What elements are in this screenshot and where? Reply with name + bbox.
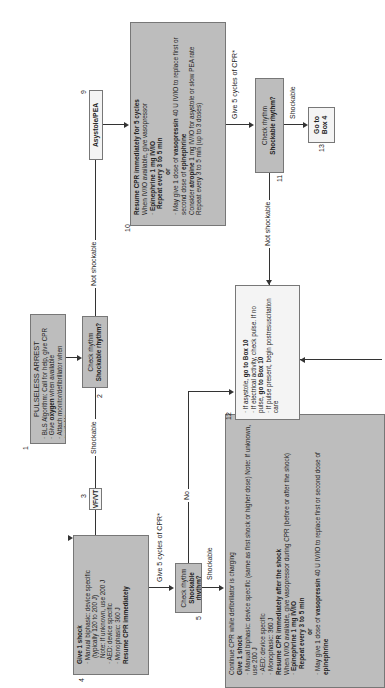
box-number: 12: [225, 412, 232, 420]
connector: [103, 124, 125, 125]
box-give-1-shock: Give 1 shock Manual biphasic: device spe…: [73, 535, 149, 675]
box-number: 9: [80, 90, 87, 94]
edge-label-shockable: Shockable: [90, 419, 97, 456]
box-text: Shockable rhythm?: [269, 83, 277, 168]
list-item: AED: device specific: [259, 419, 267, 675]
box-title: Give 1 shock: [76, 540, 84, 664]
box-text: Check rhythm: [261, 83, 269, 168]
box-text: Shockable rhythm?: [95, 321, 103, 383]
list-item: Note: If unknown, use 200 J: [99, 540, 107, 664]
list-item: May give 1 dose of vasopressin 40 U IV/I…: [314, 419, 330, 675]
box-give-shock-6: Continue CPR while defibrillator is char…: [225, 414, 385, 688]
box-text: Check rhythm: [87, 321, 95, 383]
box-number: 2: [96, 394, 103, 398]
box-number: 11: [276, 175, 283, 182]
box-text: Resume CPR immediately after the shock: [275, 419, 283, 675]
list-item: If electrical activity, check pulse. If …: [250, 290, 265, 413]
box-number: 3: [80, 494, 87, 498]
box-text: Check rhythm: [180, 568, 188, 608]
box-12: If asystole, go to Box 10 If electrical …: [235, 285, 300, 420]
arrow-icon: [169, 585, 174, 591]
box-text: or: [306, 419, 314, 675]
connector: [95, 510, 96, 538]
arrow-icon: [68, 535, 73, 541]
arrow-icon: [249, 122, 254, 128]
box-check-rhythm-11: Check rhythm Shockable rhythm?: [255, 78, 284, 173]
list-item: Manual biphasic: device specific (same a…: [244, 419, 260, 675]
edge-label-no: No: [183, 489, 190, 502]
list-item: If pulse present, begin postresuscitatio…: [265, 290, 280, 413]
list-item: Monophasic: 360 J: [267, 419, 275, 675]
connector: [188, 391, 189, 563]
edge-label-not-shockable: Not shockable: [264, 200, 271, 248]
edge-label-shockable: Shockable: [289, 84, 296, 121]
list-item: Manual biphasic: device specific: [84, 540, 92, 664]
connector: [188, 391, 230, 392]
connector: [226, 124, 250, 125]
list-item: BLS Algorithm: Call for help, give CPR: [41, 319, 49, 439]
box-text: Box 4: [321, 112, 329, 138]
list-item: May give 1 dose of vasopressin 40 U IV/I…: [172, 27, 188, 215]
box-resume-cpr-10: Resume CPR immediately for 5 cycles When…: [130, 22, 226, 226]
list-item: Epinephrine 1 mg IV/IO: [290, 419, 298, 675]
box-text: Shockable rhythm?: [188, 568, 202, 608]
list-item: Repeat every 3 to 5 min: [156, 27, 164, 215]
edge-label-not-shockable: Not shockable: [90, 240, 97, 288]
box-vf-vt: VF/VT: [89, 488, 102, 510]
box-number: 1: [22, 446, 29, 450]
box-title: PULSELESS ARREST: [33, 319, 41, 439]
edge-label-shockable: Shockable: [206, 545, 213, 582]
list-item: Epinephrine 1 mg IV/IO: [149, 27, 157, 215]
arrow-icon: [229, 389, 234, 395]
connector: [300, 359, 382, 360]
list-item: AED: device specific: [106, 540, 114, 664]
list-item: Repeat every 3 to 5 min: [298, 419, 306, 675]
box-check-rhythm-5: Check rhythm Shockable rhythm?: [175, 563, 202, 613]
connector: [149, 587, 170, 588]
arrow-icon: [219, 585, 224, 591]
edge-label-give-5-cycles: Give 5 cycles of CPR*: [156, 511, 163, 584]
arrow-icon: [300, 357, 305, 363]
list-item: If asystole, go to Box 10: [242, 290, 250, 413]
arrow-icon: [124, 122, 129, 128]
connector: [284, 124, 304, 125]
box-text: or: [164, 27, 172, 215]
box-text: Epinephrine 1 mg IV/IO: [290, 601, 297, 671]
box-number: 5: [195, 616, 202, 620]
edge-label-give-5-cycles: Give 5 cycles of CPR*: [231, 48, 238, 121]
list-item: Give oxygen when available: [48, 319, 56, 439]
list-item: Attach monitor/defibrillator when availa…: [56, 319, 66, 439]
box-pulseless-arrest: PULSELESS ARREST BLS Algorithm: Call for…: [30, 314, 66, 444]
box-text: Give 1 shock: [236, 419, 244, 675]
box-text: Resume CPR immediately for 5 cycles: [133, 27, 141, 215]
box-text: Repeat every 3 to 5 min (up to 3 doses): [195, 27, 203, 215]
box-text: Consider atropine 1 mg IV/IO for asystol…: [188, 27, 196, 215]
connector: [202, 587, 220, 588]
connector: [95, 160, 96, 316]
box-text: Continue CPR while defibrillator is char…: [228, 419, 236, 675]
box-number: 13: [318, 144, 325, 152]
box-check-rhythm-2: Check rhythm Shockable rhythm?: [82, 316, 108, 388]
box-footer: Resume CPR immediately: [122, 540, 130, 664]
box-number: 4: [78, 678, 85, 682]
box-text: When IV/IO available, give vasopressor d…: [283, 419, 291, 675]
box-asystole-pea: Asystole/PEA: [89, 90, 103, 160]
box-go-to-box-4: Go to Box 4: [308, 107, 335, 143]
list-item: Monophasic: 360 J: [114, 540, 122, 664]
list-item: (typically 120 to 200 J): [91, 540, 99, 664]
box-text: When IV/IO available, give vasopressor: [141, 27, 149, 215]
box-text: Go to: [313, 112, 321, 138]
